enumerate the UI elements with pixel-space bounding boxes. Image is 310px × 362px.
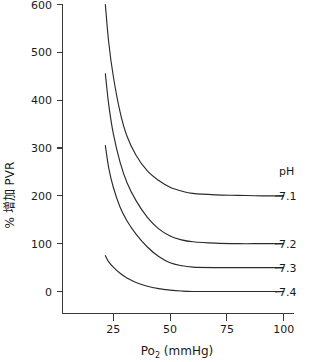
y-tick-label-400: 400 — [31, 94, 52, 107]
y-tick-label-600: 600 — [31, 0, 52, 12]
x-tick-label-75: 75 — [220, 323, 234, 336]
y-axis-title: % 增加 PVR — [3, 162, 17, 229]
y-axis-tick-labels: 600 500 400 300 200 100 0 — [31, 0, 52, 299]
x-axis-ticks — [113, 314, 283, 321]
curve-ph-7-3 — [105, 146, 283, 268]
curve-ph-7-2 — [105, 74, 283, 244]
y-tick-label-500: 500 — [31, 46, 52, 59]
y-tick-label-300: 300 — [31, 142, 52, 155]
y-axis-ticks — [57, 5, 63, 292]
chart-figure: 600 500 400 300 200 100 0 25 50 75 100 %… — [0, 0, 310, 362]
curve-ph-7-4 — [105, 256, 283, 292]
legend-title: pH — [279, 165, 294, 178]
x-axis-title-unit: (mmHg) — [160, 344, 213, 358]
x-axis-title: Po2 (mmHg) — [141, 344, 213, 360]
data-curves-group — [105, 5, 283, 293]
x-tick-label-100: 100 — [273, 323, 294, 336]
y-tick-label-0: 0 — [45, 286, 52, 299]
series-label-7-3: 7.3 — [279, 262, 297, 275]
x-tick-label-25: 25 — [106, 323, 120, 336]
y-tick-label-100: 100 — [31, 238, 52, 251]
x-tick-label-50: 50 — [163, 323, 177, 336]
series-label-7-4: 7.4 — [279, 286, 297, 299]
series-label-7-2: 7.2 — [279, 238, 297, 251]
series-label-7-1: 7.1 — [279, 190, 297, 203]
y-tick-label-200: 200 — [31, 190, 52, 203]
x-axis-tick-labels: 25 50 75 100 — [106, 323, 294, 336]
y-axis-title-text: % 增加 PVR — [3, 162, 17, 229]
x-axis-title-main: Po — [141, 344, 155, 358]
pvr-vs-po2-line-chart: 600 500 400 300 200 100 0 25 50 75 100 %… — [0, 0, 310, 362]
curve-ph-7-1 — [105, 5, 283, 196]
legend: pH 7.1 7.2 7.3 7.4 — [279, 165, 297, 299]
